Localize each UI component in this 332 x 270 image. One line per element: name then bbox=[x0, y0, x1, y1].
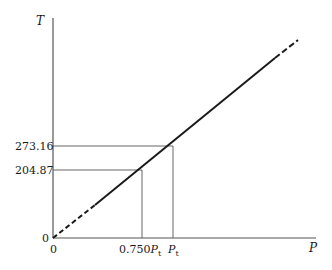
y-axis-label: T bbox=[36, 14, 45, 28]
x-tick-pt: Pt bbox=[167, 243, 179, 258]
thermometer-diagram: T P 273.16 204.87 0 0 0.750Pt Pt bbox=[0, 0, 332, 270]
line-dashed-extension bbox=[275, 40, 298, 58]
y-tick-zero: 0 bbox=[42, 232, 49, 245]
line-dashed-origin bbox=[53, 205, 95, 238]
y-tick-204: 204.87 bbox=[15, 164, 54, 177]
line-solid bbox=[95, 58, 275, 205]
x-tick-075pt: 0.750Pt bbox=[119, 243, 162, 258]
x-tick-pt-sub: t bbox=[175, 249, 179, 258]
y-tick-273: 273.16 bbox=[15, 140, 54, 153]
x-axis-label: P bbox=[308, 241, 318, 255]
x-tick-zero: 0 bbox=[50, 243, 57, 256]
x-tick-075-sub: t bbox=[158, 249, 162, 258]
x-tick-075-coef: 0.750 bbox=[119, 243, 151, 256]
